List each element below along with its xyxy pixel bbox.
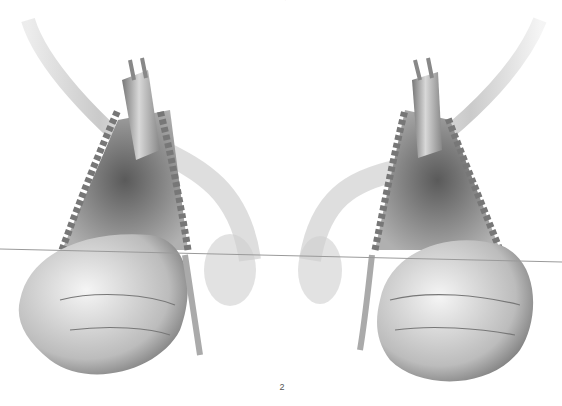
top-mark: ' — [285, 0, 286, 4]
right-panel — [298, 20, 540, 381]
tube-left-lower — [185, 255, 200, 355]
hand-right — [377, 240, 533, 381]
tube-right-lower — [360, 255, 372, 350]
page-number: 2 — [276, 382, 288, 392]
hand-left — [19, 234, 188, 374]
surgical-illustration — [0, 0, 562, 406]
incision-left — [62, 110, 188, 250]
left-panel — [19, 20, 256, 374]
illustration-canvas — [0, 0, 562, 406]
